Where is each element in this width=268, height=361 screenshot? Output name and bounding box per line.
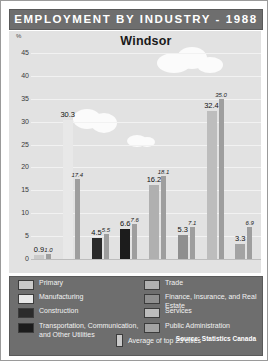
legend-swatch (144, 308, 160, 318)
legend-swatch (144, 280, 160, 290)
bar-average-value-label: 6.9 (242, 220, 257, 226)
y-axis-tick-label: 30 (13, 118, 29, 125)
y-axis-tick-label: 15 (13, 186, 29, 193)
legend-item: Public Administration (144, 322, 260, 333)
bar-group: 3.36.9 (235, 31, 261, 273)
bar-average-value-label: 18.1 (156, 169, 171, 175)
bar-value-label: 30.3 (59, 110, 77, 119)
legend-swatch (144, 323, 160, 333)
legend-swatch-average (116, 334, 123, 347)
y-axis-tick-label: 40 (13, 72, 29, 79)
bar-average (46, 254, 51, 259)
bar-city (63, 120, 73, 259)
legend-swatch (18, 323, 34, 333)
y-axis-tick-label: 20 (13, 163, 29, 170)
bar-average (132, 224, 137, 259)
page-title: EMPLOYMENT BY INDUSTRY - 1988 (10, 10, 262, 29)
y-axis-tick-label: 5 (13, 232, 29, 239)
bar-city (207, 111, 217, 259)
bar-group: 5.37.1 (178, 31, 207, 273)
y-axis-tick-label: 0 (13, 255, 29, 262)
legend-swatch (18, 280, 34, 290)
y-axis-tick-label: 25 (13, 141, 29, 148)
legend-item: Manufacturing (18, 293, 142, 304)
bar-city (149, 185, 159, 259)
bar-group: 16.218.1 (149, 31, 178, 273)
y-axis-label: % (16, 33, 21, 39)
legend-panel: PrimaryManufacturingConstructionTranspor… (9, 276, 263, 356)
legend-swatch (18, 294, 34, 304)
legend-label: Manufacturing (39, 293, 83, 302)
plot-area: % 051015202530354045 Windsor 0.91.030.31… (9, 31, 261, 273)
legend-label: Primary (39, 279, 63, 288)
bar-average-value-label: 7.6 (127, 217, 142, 223)
bar-city (120, 229, 130, 259)
legend-label: Services (165, 307, 192, 316)
bar-average-value-label: 1.0 (41, 247, 56, 253)
bar-city (92, 238, 102, 259)
bar-group: 4.55.5 (92, 31, 121, 273)
legend-label: Public Administration (165, 322, 230, 331)
legend-swatch (144, 294, 160, 304)
bar-average (104, 234, 109, 259)
bar-group: 6.67.6 (120, 31, 149, 273)
legend-item: Construction (18, 307, 142, 318)
bar-average-value-label: 5.5 (99, 227, 114, 233)
bar-city (34, 255, 44, 259)
header-bar: EMPLOYMENT BY INDUSTRY - 1988 (9, 9, 263, 30)
chart-figure: EMPLOYMENT BY INDUSTRY - 1988 % 05101520… (0, 0, 268, 361)
bar-city (235, 244, 245, 259)
bar-average (75, 179, 80, 259)
legend-swatch (18, 308, 34, 318)
legend-label: Construction (39, 307, 78, 316)
bar-average (190, 227, 195, 260)
legend-label: Trade (165, 279, 183, 288)
legend-item: Services (144, 307, 260, 318)
y-axis-tick-label: 35 (13, 95, 29, 102)
legend-item: Primary (18, 279, 142, 290)
y-axis-tick-label: 45 (13, 49, 29, 56)
bar-average (219, 99, 224, 259)
bar-average (161, 176, 166, 259)
bar-series-container: 0.91.030.317.44.55.56.67.616.218.15.37.1… (31, 31, 261, 273)
legend-item: Trade (144, 279, 260, 290)
bar-average-value-label: 7.1 (185, 220, 200, 226)
source-note: Source: Statistics Canada (176, 335, 256, 342)
bar-average (247, 227, 252, 259)
bar-average-value-label: 35.0 (214, 92, 229, 98)
y-axis-tick-label: 10 (13, 209, 29, 216)
bar-average-value-label: 17.4 (70, 172, 85, 178)
bar-group: 0.91.0 (34, 31, 63, 273)
bar-city (178, 235, 188, 259)
